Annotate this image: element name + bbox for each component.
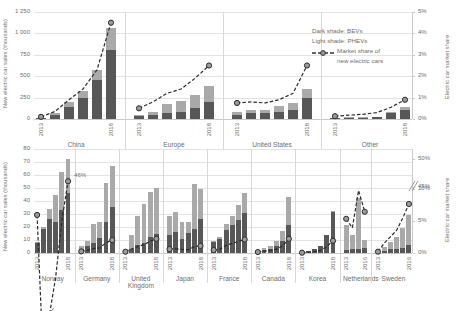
group-label: Netherlands — [343, 275, 368, 282]
x-axis-year-label: 2016 — [362, 257, 368, 270]
y2-axis-tick-label: 2% — [418, 72, 444, 78]
bar — [66, 159, 71, 253]
bar — [400, 107, 410, 119]
bar-segment-phev — [406, 215, 411, 245]
bar-segment-phev — [97, 222, 102, 239]
bar — [135, 216, 140, 253]
group-label: UnitedKingdom — [122, 275, 159, 289]
bar-segment-bev — [53, 222, 58, 253]
bar — [154, 188, 159, 253]
bar-segment-bev — [280, 241, 285, 253]
bar-segment-bev — [129, 249, 134, 253]
bar-segment-bev — [106, 50, 116, 119]
bar-segment-bev — [224, 230, 229, 252]
bar-segment-bev — [376, 252, 381, 253]
x-axis-year-label: 2018 — [153, 257, 159, 270]
bar-segment-bev — [400, 110, 410, 119]
group-separator — [207, 149, 208, 283]
bar-segment-phev — [78, 91, 88, 98]
bar-segment-phev — [356, 198, 361, 249]
bar-segment-phev — [198, 189, 203, 220]
bar-segment-bev — [286, 225, 291, 253]
y2-axis-line — [412, 149, 413, 253]
bar — [350, 235, 355, 253]
bar — [386, 112, 396, 119]
bar — [186, 222, 191, 253]
bar-segment-bev — [255, 252, 260, 253]
y2-axis-tickmark — [413, 98, 415, 99]
bar-segment-phev — [47, 209, 52, 219]
bar-segment-bev — [186, 233, 191, 253]
bar — [198, 189, 203, 253]
bar-segment-bev — [198, 219, 203, 253]
x-axis-year-label: 2018 — [402, 123, 408, 136]
bar — [148, 112, 158, 119]
bar-segment-bev — [236, 220, 241, 253]
bar — [35, 242, 40, 253]
bar-segment-bev — [47, 219, 52, 253]
bar — [167, 216, 172, 253]
bar-segment-phev — [104, 183, 109, 222]
bar — [246, 110, 256, 119]
market-share-marker — [304, 63, 309, 68]
bar-segment-bev — [217, 239, 222, 253]
bar — [173, 212, 178, 253]
bar-segment-bev — [85, 246, 90, 253]
market-share-marker — [136, 106, 141, 111]
x-axis-year-label: 2013 — [255, 257, 261, 270]
y2-axis-tick-label: 0% — [418, 249, 444, 255]
bar — [180, 222, 185, 253]
bar-segment-bev — [330, 118, 340, 119]
bar-segment-phev — [400, 228, 405, 248]
y2-axis-tickmark — [413, 189, 415, 190]
bar — [344, 225, 349, 253]
bar — [204, 86, 214, 119]
bar-segment-bev — [154, 234, 159, 254]
x-axis-year-label: 2013 — [375, 257, 381, 270]
bottom-chart-panel: New electric car sales (thousands) Elect… — [0, 145, 457, 311]
y-axis-tick-label: 60 — [2, 171, 30, 177]
bar-segment-phev — [173, 212, 178, 232]
x-axis-year-label: 2018 — [304, 123, 310, 136]
bar — [104, 183, 109, 253]
bar-segment-bev — [362, 248, 367, 253]
bar-segment-bev — [104, 222, 109, 253]
y-axis-tick-label: 500 — [2, 72, 30, 78]
bar-segment-phev — [192, 184, 197, 230]
bar-segment-bev — [167, 235, 172, 253]
bar — [300, 252, 305, 253]
bottom-plot-area: 010203040506070800%5%10%45%50%20132018No… — [34, 149, 412, 253]
bar-segment-phev — [230, 216, 235, 225]
x-axis-year-label: 2013 — [211, 257, 217, 270]
bar — [64, 102, 74, 119]
bar-segment-bev — [400, 248, 405, 253]
bar — [53, 195, 58, 253]
bar — [78, 91, 88, 119]
bar-segment-phev — [362, 240, 367, 249]
bar-segment-bev — [176, 112, 186, 119]
gridline — [34, 188, 412, 189]
gridline — [34, 162, 412, 163]
y-axis-tick-label: 70 — [2, 158, 30, 164]
bar — [242, 193, 247, 253]
bar-segment-bev — [274, 112, 284, 119]
bar — [217, 237, 222, 253]
bar-segment-bev — [344, 250, 349, 253]
bar — [262, 248, 267, 253]
bar-segment-phev — [176, 101, 186, 112]
group-label: Canada — [255, 275, 292, 282]
x-axis-year-label: 2013 — [167, 257, 173, 270]
group-separator — [340, 149, 341, 283]
y-axis-tick-label: 1 250 — [2, 8, 30, 14]
bar — [59, 172, 64, 253]
bar — [260, 110, 270, 119]
bar-segment-phev — [135, 216, 140, 245]
bar-segment-bev — [41, 229, 46, 253]
bar-segment-bev — [211, 242, 216, 253]
bar — [372, 117, 382, 119]
bar — [382, 247, 387, 253]
market-share-marker — [406, 201, 411, 206]
bar-segment-bev — [358, 118, 368, 119]
x-axis-year-label: 2018 — [109, 257, 115, 270]
market-share-marker — [344, 216, 349, 221]
